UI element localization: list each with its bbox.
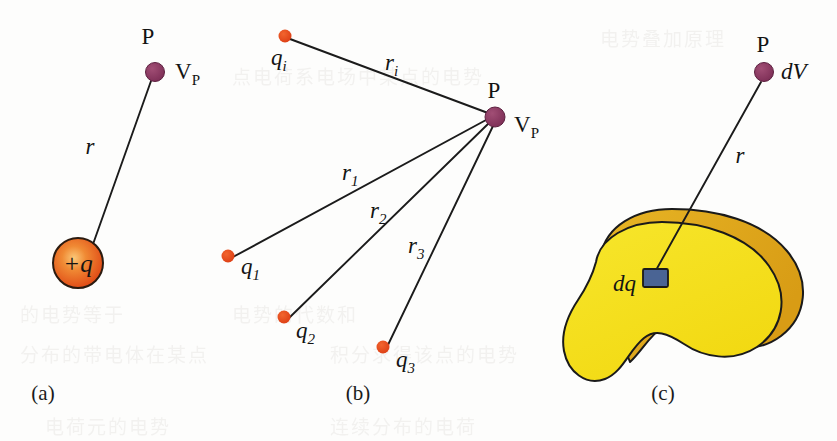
charge-element-dq bbox=[643, 269, 668, 287]
potential-label-b: VP bbox=[514, 112, 539, 141]
distance-label-c: r bbox=[736, 143, 746, 168]
potential-label-a: VP bbox=[175, 59, 200, 88]
distance-label-2: r2 bbox=[370, 198, 387, 227]
panel-b-ray-3 bbox=[387, 126, 493, 347]
field-point-marker-b bbox=[485, 107, 505, 127]
distance-label-a: r bbox=[86, 134, 96, 159]
field-point-label-c: P bbox=[757, 32, 770, 57]
field-point-marker-a bbox=[146, 63, 165, 82]
positive-charge-label: +q bbox=[63, 250, 92, 277]
field-point-label-b: P bbox=[488, 78, 501, 103]
point-charge-3-label: q3 bbox=[396, 347, 415, 376]
charge-element-label: dq bbox=[613, 271, 636, 296]
point-charge-1-label: q1 bbox=[241, 254, 260, 283]
distance-label-i: ri bbox=[385, 50, 398, 79]
panel-caption-a: (a) bbox=[31, 381, 54, 405]
point-charge-2-label: q2 bbox=[296, 318, 316, 347]
panel-b-ray-2 bbox=[289, 123, 489, 318]
point-charge-i-label: qi bbox=[271, 45, 287, 74]
potential-element-label-c: dV bbox=[781, 59, 810, 84]
charged-body-face bbox=[563, 222, 781, 381]
point-charge-i-marker bbox=[279, 30, 292, 43]
panel-b-ray-1 bbox=[233, 120, 486, 257]
panel-caption-b: (b) bbox=[346, 381, 371, 405]
panel-a-diagram: +q P VP r (a) qi q1 q2 q3 ri r1 r2 r3 P … bbox=[0, 0, 837, 441]
point-charge-3-marker bbox=[377, 341, 390, 354]
panel-a-distance-line bbox=[92, 81, 151, 247]
field-point-label-a: P bbox=[142, 24, 155, 49]
distance-label-3: r3 bbox=[408, 233, 424, 262]
point-charge-2-marker bbox=[278, 311, 291, 324]
figure-root: 电势叠加原理点电荷系电场中某点的电势的电势等于电势的代数和分布的带电体在某点积分… bbox=[0, 0, 837, 441]
panel-caption-c: (c) bbox=[651, 381, 674, 405]
field-point-marker-c bbox=[755, 63, 774, 82]
point-charge-1-marker bbox=[222, 250, 235, 263]
distance-label-1: r1 bbox=[342, 160, 358, 189]
